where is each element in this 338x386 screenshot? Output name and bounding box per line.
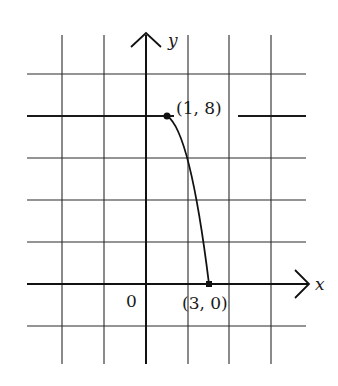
- labels-layer: y x 0 (1, 8) (3, 0): [0, 0, 338, 386]
- origin-label: 0: [126, 291, 137, 311]
- x-axis-label: x: [315, 274, 325, 294]
- y-axis-label: y: [167, 30, 178, 50]
- point-label-1-8: (1, 8): [176, 98, 222, 118]
- point-label-3-0: (3, 0): [182, 293, 228, 313]
